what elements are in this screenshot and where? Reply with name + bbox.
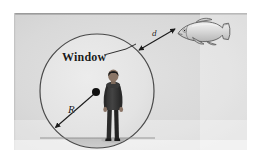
physics-figure-window-fish: Window R d <box>0 0 261 162</box>
distance-label: d <box>152 29 157 38</box>
person-right-shoe <box>114 139 120 142</box>
window-label: Window <box>62 51 106 63</box>
person-left-hand <box>103 107 107 112</box>
person-left-shoe <box>105 139 111 142</box>
circle-center-dot <box>92 88 100 96</box>
radius-label: R <box>68 104 75 115</box>
fish-pupil <box>184 30 186 32</box>
person-right-hand <box>119 107 123 112</box>
person-shadow <box>101 138 125 143</box>
person-right-leg <box>114 106 119 139</box>
figure-canvas <box>0 0 261 162</box>
